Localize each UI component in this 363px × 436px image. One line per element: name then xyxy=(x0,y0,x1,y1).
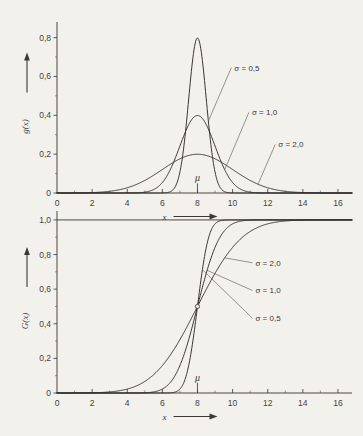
x-tick-label: 8 xyxy=(195,398,200,408)
mu-label: μ xyxy=(194,372,200,383)
series-label: σ = 1,0 xyxy=(252,108,278,117)
figure-canvas: 00,20,40,60,80246810121416σ = 0,5σ = 1,0… xyxy=(0,0,363,436)
x-tick-label: 12 xyxy=(263,198,273,208)
y-tick-label: 0 xyxy=(46,388,51,398)
figure-background xyxy=(0,0,363,436)
y-tick-label: 0 xyxy=(46,188,51,198)
x-tick-label: 8 xyxy=(195,198,200,208)
x-tick-label: 12 xyxy=(263,398,273,408)
x-tick-label: 6 xyxy=(160,198,165,208)
x-tick-label: 2 xyxy=(90,398,95,408)
normal-distribution-figure: 00,20,40,60,80246810121416σ = 0,5σ = 1,0… xyxy=(0,0,363,436)
y-tick-label: 0,8 xyxy=(39,250,51,260)
series-label: σ = 2,0 xyxy=(278,140,304,149)
y-tick-label: 0,4 xyxy=(39,110,51,120)
x-axis-title: x xyxy=(162,212,167,222)
series-label: σ = 0,5 xyxy=(255,314,281,323)
x-tick-label: 10 xyxy=(228,198,238,208)
y-tick-label: 0,2 xyxy=(39,353,51,363)
mu-label: μ xyxy=(194,172,200,183)
y-tick-label: 0,6 xyxy=(39,71,51,81)
x-tick-label: 14 xyxy=(298,198,308,208)
y-tick-label: 0,4 xyxy=(39,319,51,329)
x-tick-label: 4 xyxy=(125,398,130,408)
x-tick-label: 0 xyxy=(55,398,60,408)
x-tick-label: 6 xyxy=(160,398,165,408)
y-axis-title: G(x) xyxy=(20,313,30,330)
x-tick-label: 16 xyxy=(333,398,343,408)
series-label: σ = 0,5 xyxy=(234,64,260,73)
series-label: σ = 1,0 xyxy=(255,286,281,295)
series-label: σ = 2,0 xyxy=(255,259,281,268)
x-axis-title: x xyxy=(162,412,167,422)
x-tick-label: 4 xyxy=(125,198,130,208)
y-tick-label: 1,0 xyxy=(39,215,51,225)
x-tick-label: 2 xyxy=(90,198,95,208)
x-tick-label: 14 xyxy=(298,398,308,408)
y-axis-title: g(x) xyxy=(20,119,30,134)
y-tick-label: 0,6 xyxy=(39,284,51,294)
x-tick-label: 0 xyxy=(55,198,60,208)
y-tick-label: 0,8 xyxy=(39,33,51,43)
x-tick-label: 16 xyxy=(333,198,343,208)
x-tick-label: 10 xyxy=(228,398,238,408)
crossing-point-marker xyxy=(195,304,199,308)
y-tick-label: 0,2 xyxy=(39,149,51,159)
